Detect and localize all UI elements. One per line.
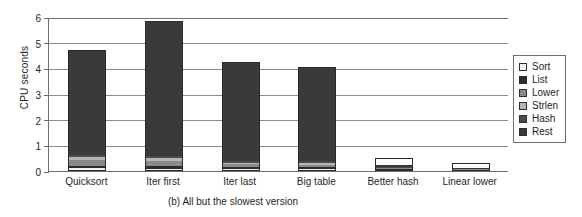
- legend-label: Lower: [532, 88, 559, 98]
- y-axis-tick: [44, 18, 49, 19]
- legend-item-list: List: [519, 73, 559, 86]
- y-axis-tick: [44, 69, 49, 70]
- plot-area: 0123456: [48, 18, 508, 172]
- y-axis-tick: [44, 95, 49, 96]
- legend-label: Sort: [532, 62, 550, 72]
- legend-swatch-icon: [519, 115, 527, 123]
- legend-label: Strlen: [532, 101, 558, 111]
- y-axis-tick-label: 0: [35, 167, 41, 178]
- x-axis-label-quicksort: Quicksort: [65, 176, 107, 187]
- y-axis-tick: [44, 146, 49, 147]
- bar-big-table: [298, 67, 336, 171]
- x-axis-label-big-table: Big table: [297, 176, 336, 187]
- figure-caption: (b) All but the slowest version: [0, 196, 466, 207]
- x-axis-label-iter-first: Iter first: [146, 176, 179, 187]
- bar-linear-lower: [452, 163, 490, 171]
- bar-iter-first: [145, 21, 183, 171]
- legend-swatch-icon: [519, 89, 527, 97]
- gridline: [49, 69, 508, 70]
- x-axis-label-iter-last: Iter last: [223, 176, 256, 187]
- legend-label: Rest: [532, 127, 553, 137]
- legend-swatch-icon: [519, 102, 527, 110]
- legend-label: Hash: [532, 114, 555, 124]
- bar-better-hash: [375, 158, 413, 171]
- bar-iter-last: [222, 62, 260, 171]
- x-axis-label-linear-lower: Linear lower: [442, 176, 496, 187]
- chart-legend: SortListLowerStrlenHashRest: [513, 55, 566, 143]
- figure: CPU seconds 0123456 SortListLowerStrlenH…: [0, 0, 582, 217]
- gridline: [49, 95, 508, 96]
- y-axis-tick: [44, 172, 49, 173]
- legend-swatch-icon: [519, 128, 527, 136]
- legend-item-lower: Lower: [519, 86, 559, 99]
- y-axis-tick-label: 4: [35, 64, 41, 75]
- bar-segment-rest: [299, 68, 335, 161]
- legend-item-sort: Sort: [519, 60, 559, 73]
- y-axis-tick-label: 6: [35, 13, 41, 24]
- bar-segment-rest: [69, 51, 105, 154]
- y-axis-tick-label: 2: [35, 115, 41, 126]
- legend-swatch-icon: [519, 63, 527, 71]
- x-axis-label-better-hash: Better hash: [367, 176, 418, 187]
- bar-segment-sort: [223, 169, 259, 170]
- y-axis-tick: [44, 120, 49, 121]
- gridline: [49, 18, 508, 19]
- legend-item-rest: Rest: [519, 125, 559, 138]
- legend-item-strlen: Strlen: [519, 99, 559, 112]
- bar-segment-sort: [146, 169, 182, 170]
- y-axis-tick-label: 3: [35, 90, 41, 101]
- gridline: [49, 146, 508, 147]
- y-axis-tick: [44, 43, 49, 44]
- bar-segment-sort: [299, 169, 335, 170]
- gridline: [49, 43, 508, 44]
- y-axis-tick-label: 5: [35, 38, 41, 49]
- bar-quicksort: [68, 50, 106, 171]
- legend-item-hash: Hash: [519, 112, 559, 125]
- bar-segment-sort: [69, 168, 105, 170]
- y-axis-title: CPU seconds: [19, 18, 30, 138]
- bar-segment-rest: [146, 22, 182, 156]
- legend-swatch-icon: [519, 76, 527, 84]
- legend-label: List: [532, 75, 548, 85]
- bar-segment-rest: [223, 63, 259, 161]
- y-axis-tick-label: 1: [35, 141, 41, 152]
- gridline: [49, 120, 508, 121]
